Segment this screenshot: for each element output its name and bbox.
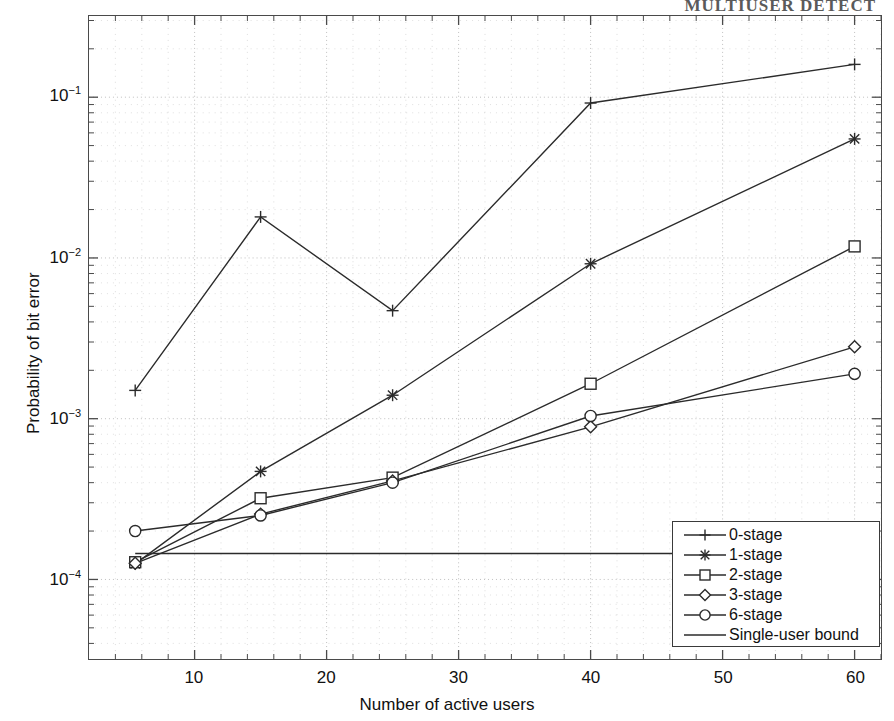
series-1-stage [129,133,860,570]
y-tick-label: 10−1 [50,84,81,106]
x-tick-label: 50 [693,668,753,688]
legend-diamond-marker-icon [681,585,729,605]
legend-item-label: 0-stage [729,525,782,545]
legend-item-label: 3-stage [729,585,782,605]
y-tick-label: 10−3 [50,407,81,429]
series-0-stage [129,58,860,396]
legend-plus-marker-icon [681,525,729,545]
legend-item-label: 6-stage [729,605,782,625]
legend-item-label: 1-stage [729,545,782,565]
y-tick-label: 10−2 [50,246,81,268]
x-tick-label: 60 [826,668,886,688]
y-axis-label: Probability of bit error [24,272,44,434]
x-tick-label: 40 [561,668,621,688]
legend-item-1-stage[interactable]: 1-stage [673,545,879,565]
legend-asterisk-marker-icon [681,545,729,565]
x-axis-label: Number of active users [0,695,894,715]
figure-ber-vs-users: Probability of bit error Number of activ… [0,0,894,721]
y-tick-label: 10−4 [50,568,81,590]
legend-item-2-stage[interactable]: 2-stage [673,565,879,585]
legend-item-6-stage[interactable]: 6-stage [673,605,879,625]
x-tick-label: 10 [164,668,224,688]
legend-item-single-user-bound[interactable]: Single-user bound [673,625,879,645]
x-tick-label: 20 [296,668,356,688]
legend-item-label: Single-user bound [729,625,859,645]
legend-line-icon [681,625,729,645]
legend-item-0-stage[interactable]: 0-stage [673,525,879,545]
legend: 0-stage1-stage2-stage3-stage6-stageSingl… [672,521,880,647]
legend-circle-marker-icon [681,605,729,625]
legend-item-label: 2-stage [729,565,782,585]
legend-square-marker-icon [681,565,729,585]
legend-item-3-stage[interactable]: 3-stage [673,585,879,605]
x-tick-label: 30 [429,668,489,688]
